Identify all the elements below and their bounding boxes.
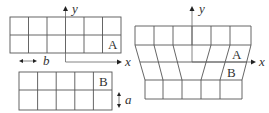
arrow-down-icon (117, 104, 121, 108)
dimension-a-arrow (117, 92, 121, 108)
right-y-arrow-icon (190, 6, 195, 11)
right-diagram: y x A B (135, 1, 265, 99)
left-diagram: A y x b B a (10, 1, 132, 110)
dimension-b-arrow (19, 59, 37, 63)
left-y-axis-label: y (70, 1, 78, 16)
right-label-b: B (227, 65, 236, 80)
deformed-grid (135, 26, 251, 99)
right-x-axis-label: x (258, 54, 265, 69)
arrow-left-icon (19, 59, 23, 63)
right-y-axis-label: y (197, 1, 205, 16)
left-y-arrow-icon (63, 6, 68, 11)
dimension-a-label: a (125, 92, 132, 107)
dimension-b-label: b (43, 53, 50, 68)
arrow-right-icon (33, 59, 37, 63)
right-x-arrow-icon (251, 60, 256, 65)
left-x-axis-label: x (124, 54, 131, 69)
grid-b-label: B (99, 74, 108, 89)
left-x-arrow-icon (117, 60, 122, 65)
diagram-canvas: A y x b B a (0, 0, 269, 113)
right-label-a: A (232, 47, 242, 62)
arrow-up-icon (117, 92, 121, 96)
left-axis-lines (66, 10, 119, 62)
grid-a-label: A (108, 37, 118, 52)
